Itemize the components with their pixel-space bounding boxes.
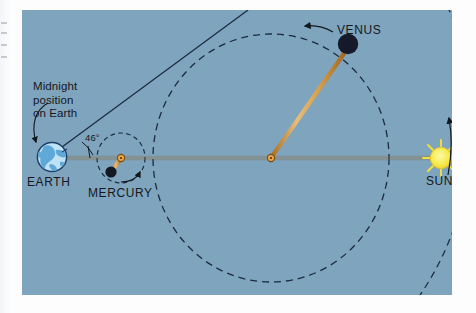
midnight-note-line-3: on Earth bbox=[33, 107, 77, 121]
orbit-diagram bbox=[0, 0, 476, 313]
mercury-orbit-center-marker bbox=[117, 154, 124, 161]
sun-label: SUN bbox=[426, 174, 453, 188]
sun-body bbox=[423, 140, 459, 176]
earth-label: EARTH bbox=[27, 175, 70, 189]
mercury-planet bbox=[105, 166, 116, 177]
midnight-note-line-2: position bbox=[33, 94, 77, 108]
figure-page: Midnight position on Earth EARTH MERCURY… bbox=[0, 0, 476, 313]
diagram-panel-background bbox=[22, 10, 452, 295]
venus-orbit-center-marker bbox=[267, 154, 274, 161]
midnight-note-line-1: Midnight bbox=[33, 80, 77, 94]
elongation-angle-label: 46° bbox=[85, 132, 100, 143]
midnight-position-note: Midnight position on Earth bbox=[33, 80, 77, 121]
earth-globe bbox=[37, 142, 67, 172]
mercury-label: MERCURY bbox=[88, 186, 153, 200]
venus-label: VENUS bbox=[337, 23, 381, 37]
